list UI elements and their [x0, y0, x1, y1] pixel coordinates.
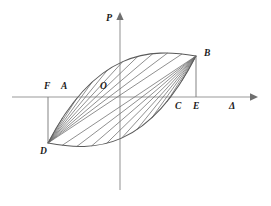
delta-axis-label: Δ [229, 101, 235, 111]
hatch-line [137, 56, 196, 130]
hatch-line [152, 56, 196, 118]
p-axis-label: P [106, 13, 112, 23]
hatch-line [48, 70, 108, 143]
point-label-a: A [61, 82, 67, 92]
hatch-line [167, 56, 196, 102]
point-label-d: D [40, 147, 47, 157]
p-axis-arrow-icon [116, 12, 123, 20]
hysteresis-loop-figure: P Δ A B C D E F O [0, 0, 271, 206]
point-label-c: C [175, 102, 181, 112]
hatch-line [48, 97, 77, 143]
hatch-line [48, 82, 92, 143]
loop-upper-arc [48, 53, 196, 143]
hatch-line [48, 62, 123, 143]
delta-axis-arrow-icon [250, 93, 258, 101]
point-label-e: E [193, 102, 199, 112]
hatch-line [48, 53, 168, 143]
point-label-o: O [100, 82, 107, 92]
axes-group [12, 12, 258, 190]
point-label-f: F [44, 82, 50, 92]
hatch-fill-group [48, 53, 196, 146]
hatch-line [48, 56, 138, 143]
point-label-b: B [204, 49, 210, 59]
loop-outline-group [48, 53, 196, 146]
loop-lower-arc [48, 56, 196, 146]
drop-lines-group [48, 56, 196, 143]
